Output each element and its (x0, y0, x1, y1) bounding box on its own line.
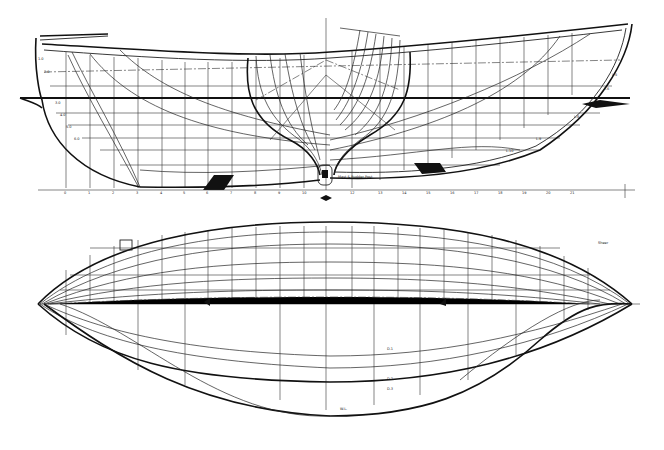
half-breadth-view: Sheer D.1 D.2 D.3 W.L. (38, 222, 640, 416)
svg-text:L.10: L.10 (506, 149, 514, 153)
svg-text:5: 5 (183, 191, 185, 195)
svg-text:13: 13 (378, 191, 382, 195)
svg-text:4: 4 (160, 191, 163, 195)
svg-text:14: 14 (402, 191, 407, 195)
svg-text:0: 0 (64, 191, 66, 195)
buttock-labels: 1.0 2.0 3.0 4.0 5.0 6.0 L.5 L.6 L.7 L.8 … (38, 57, 617, 179)
svg-text:6.0: 6.0 (74, 137, 80, 141)
svg-text:L.5: L.5 (612, 73, 617, 77)
keel-half-breadth (44, 304, 632, 416)
svg-text:1.0: 1.0 (38, 57, 44, 61)
svg-text:L.6: L.6 (604, 87, 609, 91)
lines-plan-drawing: 0 1 2 3 4 5 6 7 8 9 10 12 13 14 15 16 17… (0, 0, 664, 450)
station-labels: 0 1 2 3 4 5 6 7 8 9 10 12 13 14 15 16 17… (64, 191, 574, 195)
svg-text:17: 17 (474, 191, 478, 195)
svg-text:W.L.: W.L. (340, 407, 347, 411)
keel-line (140, 180, 320, 187)
svg-text:3: 3 (136, 191, 138, 195)
svg-text:L.8: L.8 (574, 115, 579, 119)
stern-profile (36, 38, 140, 187)
svg-text:10: 10 (302, 191, 306, 195)
svg-text:D.2: D.2 (387, 377, 393, 381)
svg-text:7: 7 (230, 191, 232, 195)
profile-view: 0 1 2 3 4 5 6 7 8 9 10 12 13 14 15 16 17… (20, 18, 635, 201)
svg-text:8: 8 (254, 191, 256, 195)
svg-text:16: 16 (450, 191, 454, 195)
ballast-block-aft (203, 175, 234, 190)
svg-text:15: 15 (426, 191, 430, 195)
svg-text:6: 6 (206, 191, 208, 195)
svg-text:3.0: 3.0 (55, 101, 61, 105)
svg-text:5.0: 5.0 (66, 125, 72, 129)
svg-text:Mast & Rudder Post: Mast & Rudder Post (338, 175, 373, 179)
svg-text:21: 21 (570, 191, 574, 195)
svg-text:1: 1 (88, 191, 90, 195)
svg-text:2.0: 2.0 (44, 70, 50, 74)
svg-text:2: 2 (112, 191, 114, 195)
svg-text:L.9: L.9 (536, 137, 541, 141)
svg-text:Sheer: Sheer (598, 241, 609, 245)
svg-text:19: 19 (522, 191, 526, 195)
ballast-block-fwd (414, 163, 446, 174)
svg-text:9: 9 (278, 191, 280, 195)
svg-text:20: 20 (546, 191, 550, 195)
svg-text:12: 12 (350, 191, 354, 195)
svg-text:D.3: D.3 (387, 387, 393, 391)
svg-text:4.0: 4.0 (60, 113, 66, 117)
svg-text:D.1: D.1 (387, 347, 393, 351)
half-breadth-labels: Sheer D.1 D.2 D.3 W.L. (340, 241, 609, 411)
svg-text:18: 18 (498, 191, 502, 195)
